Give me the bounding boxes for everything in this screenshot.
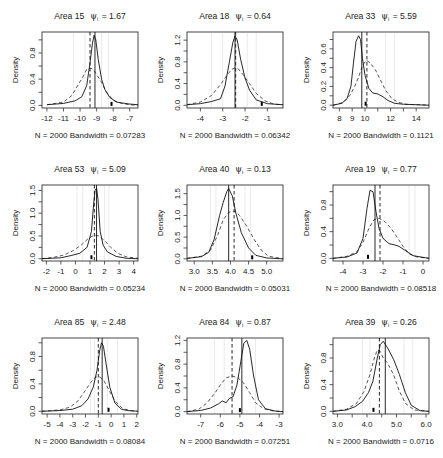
- panel-title: Area 53ψi = 5.09: [54, 164, 126, 175]
- y-tick-label: 0.0: [319, 99, 328, 111]
- density-panel: Area 39ψi = 0.263.04.05.06.00.00.40.8Den…: [302, 317, 434, 446]
- y-tick-label: 0.4: [319, 62, 328, 74]
- x-tick-label: -12: [41, 114, 53, 123]
- y-tick-label: 0.8: [173, 56, 182, 68]
- y-tick-label: 0.4: [173, 77, 182, 89]
- x-tick-label: 3.0: [189, 267, 201, 276]
- x-tick-label: -5: [44, 420, 52, 429]
- x-axis-label: N = 2000 Bandwidth = 0.07283: [35, 131, 146, 140]
- x-axis-label: N = 2000 Bandwidth = 0.08518: [326, 284, 437, 293]
- prior-density-curve: [47, 68, 138, 105]
- y-tick-label: 1.0: [28, 207, 37, 219]
- x-tick-label: 3.5: [207, 267, 219, 276]
- y-tick-label: 0.5: [28, 230, 37, 242]
- y-tick-label: 0.2: [319, 80, 328, 92]
- y-axis-label: Density: [11, 210, 20, 237]
- y-tick-label: 1.5: [28, 184, 37, 196]
- observed-value-marker: [372, 408, 374, 412]
- x-axis-label: N = 2000 Bandwidth = 0.05031: [180, 284, 291, 293]
- x-tick-label: 10: [361, 114, 370, 123]
- y-tick-label: 0.4: [173, 382, 182, 394]
- x-tick-label: 0: [109, 420, 114, 429]
- panel-title: Area 85ψi = 2.48: [54, 317, 126, 328]
- density-panel: Area 84ψi = 0.87-7-6-5-4-30.00.40.81.2De…: [156, 317, 291, 446]
- posterior-density-curve: [47, 35, 138, 104]
- y-tick-label: 0.4: [319, 226, 328, 238]
- y-axis-label: Density: [156, 363, 165, 390]
- density-panel: Area 53ψi = 5.09-2-1012340.00.51.01.5Den…: [11, 164, 146, 293]
- x-tick-label: -2: [241, 114, 249, 123]
- x-tick-label: 9: [350, 114, 355, 123]
- x-tick-label: -1: [399, 267, 407, 276]
- y-axis-label: Density: [11, 57, 20, 84]
- y-tick-label: 0.0: [28, 405, 37, 417]
- plot-frame: [187, 338, 283, 414]
- prior-density-curve: [42, 235, 138, 259]
- x-axis-label: N = 2000 Bandwidth = 0.07251: [180, 437, 291, 446]
- density-plot-grid: Area 15ψi = 1.67-12-11-10-9-8-70.00.40.8…: [0, 0, 443, 458]
- observed-value-marker: [367, 255, 369, 259]
- x-tick-label: -1: [95, 420, 103, 429]
- density-panel: Area 85ψi = 2.48-5-4-3-2-10120.00.40.8De…: [11, 317, 146, 446]
- x-tick-label: -2: [379, 267, 387, 276]
- x-tick-label: 12: [386, 114, 395, 123]
- panel-title: Area 84ψi = 0.87: [199, 317, 271, 328]
- observed-value-marker: [261, 102, 263, 106]
- observed-value-marker: [239, 408, 241, 412]
- plot-frame: [187, 185, 283, 261]
- panel-title: Area 19ψi = 0.77: [345, 164, 417, 175]
- x-tick-label: -4: [256, 420, 264, 429]
- y-tick-label: 0.8: [28, 47, 37, 59]
- observed-value-marker: [111, 102, 113, 106]
- x-tick-label: -6: [217, 420, 225, 429]
- x-tick-label: 2: [134, 420, 139, 429]
- y-axis-label: Density: [11, 363, 20, 390]
- y-tick-label: 0.0: [28, 99, 37, 111]
- x-tick-label: -3: [69, 420, 77, 429]
- y-tick-label: 0.4: [28, 378, 37, 390]
- y-tick-label: 0.8: [28, 350, 37, 362]
- x-tick-label: -10: [74, 114, 86, 123]
- y-tick-label: 0.0: [173, 406, 182, 418]
- x-tick-label: 6.0: [420, 420, 432, 429]
- x-tick-label: -4: [197, 114, 205, 123]
- x-tick-label: -7: [126, 114, 134, 123]
- posterior-density-curve: [187, 188, 283, 258]
- y-axis-label: Density: [156, 57, 165, 84]
- posterior-density-curve: [42, 188, 138, 259]
- y-tick-label: 0.5: [173, 231, 182, 243]
- x-tick-label: -3: [219, 114, 227, 123]
- x-axis-label: N = 2000 Bandwidth = 0.0716: [328, 437, 434, 446]
- x-tick-label: -11: [58, 114, 70, 123]
- x-tick-label: 0: [73, 267, 78, 276]
- y-tick-label: 0.0: [319, 252, 328, 264]
- panel-title: Area 39ψi = 0.26: [345, 317, 417, 328]
- observed-value-marker: [365, 102, 367, 106]
- x-tick-label: -4: [56, 420, 64, 429]
- x-tick-label: 0: [421, 267, 426, 276]
- observed-value-marker: [251, 255, 253, 259]
- density-panel: Area 33ψi = 5.59891012140.00.20.40.6Dens…: [302, 11, 434, 140]
- x-tick-label: -8: [110, 114, 118, 123]
- observed-value-marker: [108, 408, 110, 412]
- x-tick-label: -5: [236, 420, 244, 429]
- density-panel: Area 40ψi = 0.133.03.54.04.55.00.00.51.0…: [156, 164, 291, 293]
- x-axis-label: N = 2000 Bandwidth = 0.08084: [35, 437, 146, 446]
- y-axis-label: Density: [302, 210, 311, 237]
- x-tick-label: -2: [82, 420, 90, 429]
- y-tick-label: 0.0: [173, 253, 182, 265]
- x-tick-label: 14: [412, 114, 421, 123]
- x-axis-label: N = 2000 Bandwidth = 0.06342: [180, 131, 291, 140]
- y-tick-label: 1.5: [173, 188, 182, 200]
- x-tick-label: 2: [102, 267, 107, 276]
- x-tick-label: 4: [131, 267, 136, 276]
- x-tick-label: -1: [264, 114, 272, 123]
- x-axis-label: N = 2000 Bandwidth = 0.05234: [35, 284, 146, 293]
- x-tick-label: 3.0: [332, 420, 344, 429]
- posterior-density-curve: [333, 341, 429, 411]
- x-tick-label: -7: [197, 420, 205, 429]
- x-tick-label: -3: [276, 420, 284, 429]
- y-tick-label: 0.0: [173, 99, 182, 111]
- y-tick-label: 0.8: [319, 352, 328, 364]
- y-tick-label: 0.8: [319, 199, 328, 211]
